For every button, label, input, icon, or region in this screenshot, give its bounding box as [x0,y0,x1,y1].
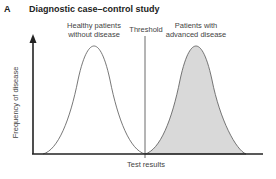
healthy-curve [43,46,145,154]
advanced-disease-curve [145,46,246,154]
y-axis-arrow-icon [30,34,37,43]
diagram-canvas [0,0,276,179]
